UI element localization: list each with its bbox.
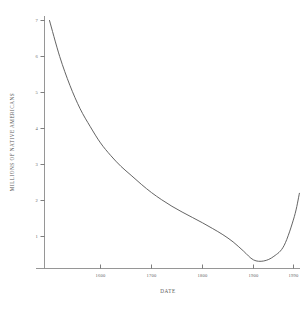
x-axis-tick-labels: 1600 1700 1800 1900 1990 bbox=[96, 273, 299, 278]
chart-figure: 7 6 5 4 3 2 1 1600 1700 1800 1900 1990 D… bbox=[0, 0, 307, 312]
x-tick-label-1900: 1900 bbox=[249, 273, 259, 278]
y-tick-label-3: 3 bbox=[36, 162, 39, 167]
x-axis-ticks bbox=[101, 265, 294, 269]
x-tick-label-1600: 1600 bbox=[96, 273, 106, 278]
x-tick-label-1700: 1700 bbox=[147, 273, 157, 278]
x-tick-label-1800: 1800 bbox=[198, 273, 208, 278]
y-axis-tick-labels: 7 6 5 4 3 2 1 bbox=[36, 18, 39, 239]
y-tick-label-1: 1 bbox=[36, 234, 39, 239]
y-axis-ticks bbox=[41, 21, 45, 237]
y-tick-label-4: 4 bbox=[36, 126, 39, 131]
x-axis-title: DATE bbox=[160, 288, 175, 294]
y-tick-label-2: 2 bbox=[36, 198, 39, 203]
population-decline-curve bbox=[50, 21, 300, 262]
y-tick-label-6: 6 bbox=[36, 54, 39, 59]
y-tick-label-7: 7 bbox=[36, 18, 39, 23]
x-tick-label-1990: 1990 bbox=[289, 273, 299, 278]
y-axis-title: MILLIONS OF NATIVE AMERICANS bbox=[9, 93, 15, 191]
y-tick-label-5: 5 bbox=[36, 90, 39, 95]
chart-plot-area: 7 6 5 4 3 2 1 1600 1700 1800 1900 1990 D… bbox=[0, 0, 307, 312]
